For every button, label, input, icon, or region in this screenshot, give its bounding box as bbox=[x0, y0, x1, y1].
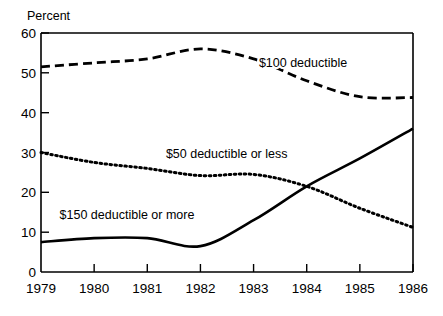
x-tick-label-1983: 1983 bbox=[239, 281, 269, 296]
series-line-dashed bbox=[41, 49, 413, 98]
x-tick-label-1985: 1985 bbox=[345, 281, 375, 296]
x-tick-label-1979: 1979 bbox=[26, 281, 56, 296]
series-line-solid bbox=[41, 129, 413, 247]
y-tick-label-10: 10 bbox=[21, 225, 36, 240]
x-tick-label-1984: 1984 bbox=[292, 281, 323, 296]
y-axis-title: Percent bbox=[27, 9, 71, 23]
x-tick-label-1981: 1981 bbox=[132, 281, 162, 296]
series-label-solid: $150 deductible or more bbox=[60, 208, 195, 222]
series-label-dashed: $100 deductible bbox=[259, 56, 347, 70]
chart-figure: Percent 60 50 40 30 20 10 0 197919 bbox=[0, 0, 443, 316]
series-label-dotted: $50 deductible or less bbox=[166, 147, 288, 161]
x-tick-label-1982: 1982 bbox=[185, 281, 215, 296]
y-tick-label-0: 0 bbox=[28, 265, 36, 280]
x-tick-label-1980: 1980 bbox=[79, 281, 109, 296]
y-tick-label-40: 40 bbox=[21, 106, 36, 121]
line-chart: Percent 60 50 40 30 20 10 0 197919 bbox=[0, 0, 443, 316]
y-tick-label-50: 50 bbox=[21, 66, 36, 81]
x-axis-tick-labels: 19791980198119821983198419851986 bbox=[26, 281, 428, 296]
y-tick-label-30: 30 bbox=[21, 146, 36, 161]
y-tick-label-60: 60 bbox=[21, 26, 36, 41]
x-axis-ticks bbox=[94, 264, 413, 272]
y-tick-label-20: 20 bbox=[21, 185, 36, 200]
x-tick-label-1986: 1986 bbox=[398, 281, 428, 296]
